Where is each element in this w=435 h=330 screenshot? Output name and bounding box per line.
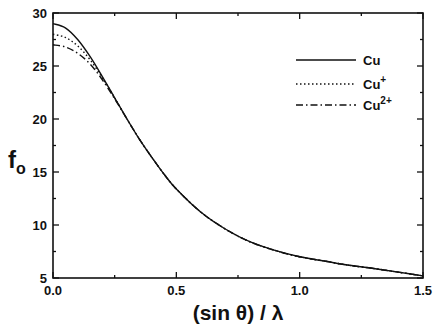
legend-item: Cu+ [296, 74, 386, 92]
y-axis-label-subscript: o [16, 160, 26, 177]
legend: CuCu+Cu2+ [296, 53, 392, 113]
y-tick-label: 25 [33, 59, 47, 74]
y-tick-labels: 51015202530 [33, 6, 47, 286]
x-tick-label: 1.0 [291, 283, 309, 298]
y-tick-label: 20 [33, 112, 47, 127]
x-tick-label: 1.5 [414, 283, 432, 298]
y-tick-label: 10 [33, 218, 47, 233]
legend-item: Cu2+ [296, 95, 392, 113]
legend-label: Cu [363, 53, 380, 68]
x-tick-labels: 0.00.51.01.5 [44, 283, 432, 298]
y-tick-label: 5 [40, 271, 47, 286]
x-tick-label: 0.5 [167, 283, 185, 298]
y-axis-label: fo [8, 146, 26, 177]
y-tick-label: 30 [33, 6, 47, 21]
legend-label: Cu+ [363, 74, 386, 92]
legend-label: Cu2+ [363, 95, 392, 113]
legend-item: Cu [296, 53, 380, 68]
y-tick-label: 15 [33, 165, 47, 180]
chart: 0.00.51.01.5 51015202530 CuCu+Cu2+ fo (s… [0, 0, 435, 330]
series-line-cuplus [53, 34, 423, 276]
x-axis-label: (sin θ) / λ [193, 301, 284, 324]
